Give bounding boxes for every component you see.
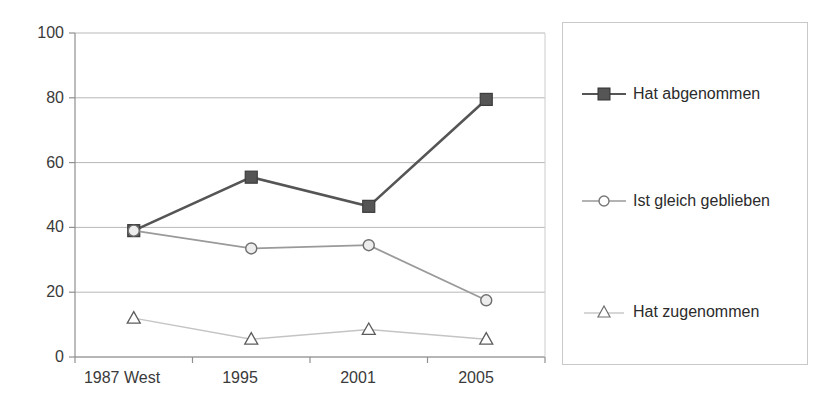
- data-point-2001[interactable]: [363, 200, 375, 212]
- legend-item-ist-gleich-geblieben[interactable]: Ist gleich geblieben: [581, 190, 770, 212]
- data-point-2005[interactable]: [481, 295, 492, 306]
- series-line: [134, 99, 487, 230]
- data-point-1987-west[interactable]: [128, 225, 139, 236]
- legend-label-hat-abgenommen: Hat abgenommen: [633, 86, 760, 102]
- line-chart-panel: 100 80 60 40 20 0 1987 West 1995 2001 20…: [0, 0, 560, 400]
- data-point-2001[interactable]: [363, 240, 374, 251]
- series-hat-abgenommen: [128, 93, 493, 236]
- legend-key-triangle-open-icon: [581, 302, 627, 322]
- series-ist-gleich-geblieben: [128, 225, 492, 306]
- legend-key-square-filled-icon: [581, 84, 627, 104]
- series-hat-zugenommen: [127, 312, 493, 345]
- data-series-layer: [127, 93, 493, 344]
- series-line: [134, 318, 487, 339]
- x-axis-ticks: [75, 357, 545, 363]
- data-point-1995[interactable]: [246, 243, 257, 254]
- chart-legend: Hat abgenommen Ist gleich geblieben Hat …: [562, 22, 808, 365]
- series-line: [134, 231, 487, 301]
- data-point-2001[interactable]: [362, 323, 375, 335]
- legend-item-hat-abgenommen[interactable]: Hat abgenommen: [581, 83, 760, 105]
- legend-key-circle-open-icon: [581, 191, 627, 211]
- legend-label-ist-gleich-geblieben: Ist gleich geblieben: [633, 193, 770, 209]
- chart-screenshot: 100 80 60 40 20 0 1987 West 1995 2001 20…: [0, 0, 837, 400]
- data-point-2005[interactable]: [480, 93, 492, 105]
- gridlines: [75, 33, 545, 357]
- data-point-1995[interactable]: [245, 171, 257, 183]
- data-point-1987-west[interactable]: [127, 312, 140, 324]
- plot-area: [0, 0, 560, 400]
- y-axis-ticks: [69, 33, 75, 357]
- legend-label-hat-zugenommen: Hat zugenommen: [633, 304, 759, 320]
- axis-lines: [75, 33, 545, 357]
- legend-item-hat-zugenommen[interactable]: Hat zugenommen: [581, 301, 759, 323]
